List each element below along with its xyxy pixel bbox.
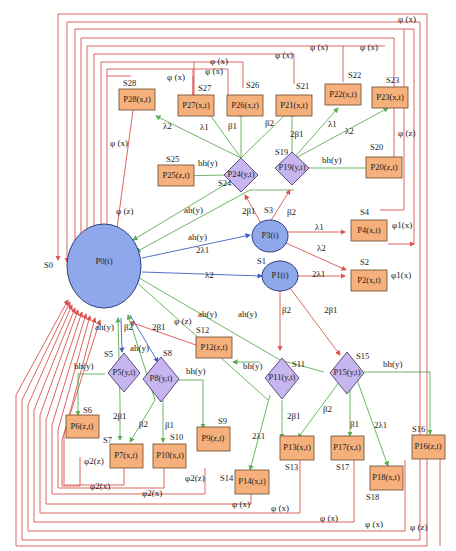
node-p16[interactable]: P16(z,t) S16 — [412, 424, 445, 459]
node-p17[interactable]: P17(x,t) S17 — [331, 436, 364, 472]
svg-text:β2: β2 — [139, 419, 148, 429]
svg-text:φ1(x): φ1(x) — [392, 220, 412, 230]
svg-text:P18(x,t): P18(x,t) — [372, 472, 400, 482]
svg-text:2β1: 2β1 — [324, 305, 338, 315]
svg-text:φ (x): φ (x) — [110, 138, 128, 148]
node-p15[interactable]: P15(y,t) S15 — [330, 351, 369, 394]
svg-text:β1: β1 — [350, 419, 359, 429]
svg-text:φ1(x): φ1(x) — [391, 270, 411, 280]
svg-text:λ1: λ1 — [328, 119, 337, 129]
svg-text:ah(y): ah(y) — [198, 309, 217, 319]
svg-text:2λ1: 2λ1 — [196, 245, 209, 255]
svg-text:S2: S2 — [360, 257, 369, 267]
svg-text:2λ1: 2λ1 — [374, 420, 387, 430]
node-p24[interactable]: P24(y,t) S24 — [218, 158, 258, 192]
node-p27[interactable]: P27(x,t) S27 — [178, 83, 214, 116]
svg-text:β1: β1 — [165, 420, 174, 430]
node-p1[interactable]: P1(t) S1 — [257, 256, 298, 291]
node-p23[interactable]: P23(x,t) S23 — [372, 75, 408, 108]
svg-text:ah(y): ah(y) — [188, 232, 207, 242]
svg-text:S10: S10 — [170, 432, 183, 442]
svg-text:S27: S27 — [198, 83, 211, 93]
svg-text:bh(y): bh(y) — [74, 361, 94, 371]
svg-text:φ (x): φ (x) — [210, 56, 228, 66]
svg-text:P27(x,t): P27(x,t) — [182, 100, 210, 110]
node-p5[interactable]: P5(y,t) S5 — [104, 349, 140, 392]
svg-text:P26(x,t): P26(x,t) — [231, 100, 259, 110]
node-p2[interactable]: P2(x,t) S2 — [351, 257, 387, 291]
svg-text:S5: S5 — [104, 349, 113, 359]
svg-text:bh(y): bh(y) — [186, 366, 206, 376]
svg-text:λ2: λ2 — [205, 270, 214, 280]
svg-text:2λ1: 2λ1 — [252, 431, 265, 441]
node-p20[interactable]: P20(z,t) S20 — [366, 142, 402, 178]
svg-text:P21(x,t): P21(x,t) — [280, 100, 308, 110]
node-p14[interactable]: P14(x,t) S14 — [220, 470, 269, 494]
svg-text:S22: S22 — [348, 70, 361, 80]
svg-text:ah(y): ah(y) — [130, 343, 149, 353]
node-p7[interactable]: P7(x,t) S7 — [103, 435, 143, 468]
svg-text:P25(z,t): P25(z,t) — [162, 170, 189, 180]
svg-text:P22(x,t): P22(x,t) — [329, 89, 357, 99]
node-p13[interactable]: P13(x,t) S13 — [280, 436, 314, 472]
svg-text:S13: S13 — [285, 462, 298, 472]
svg-text:φ (z): φ (z) — [410, 522, 427, 532]
svg-text:λ2: λ2 — [345, 126, 354, 136]
node-p10[interactable]: P10(x,t) S10 — [153, 432, 186, 468]
node-p3[interactable]: P3(t) S3 — [252, 205, 288, 252]
svg-text:φ2(x): φ2(x) — [90, 481, 110, 491]
svg-text:φ (z): φ (z) — [116, 206, 133, 216]
node-p26[interactable]: P26(x,t) S26 — [227, 80, 263, 116]
node-p25[interactable]: P25(z,t) S25 — [158, 154, 194, 186]
svg-text:S0: S0 — [44, 260, 53, 270]
svg-text:φ (x): φ (x) — [205, 66, 223, 76]
svg-text:φ (x): φ (x) — [275, 50, 293, 60]
svg-text:P17(x,t): P17(x,t) — [333, 442, 361, 452]
svg-text:2β1: 2β1 — [287, 411, 301, 421]
svg-text:ah(y): ah(y) — [95, 322, 114, 332]
svg-text:P20(z,t): P20(z,t) — [370, 162, 397, 172]
svg-text:P11(y,t): P11(y,t) — [269, 372, 296, 382]
svg-text:β1: β1 — [228, 121, 237, 131]
svg-text:ah(y): ah(y) — [238, 309, 257, 319]
svg-text:P10(x,t): P10(x,t) — [156, 450, 184, 460]
svg-text:S3: S3 — [264, 205, 273, 215]
node-p8[interactable]: P8(y,t) S8 — [143, 348, 179, 402]
svg-text:bh(y): bh(y) — [383, 359, 403, 369]
svg-text:φ (x): φ (x) — [310, 42, 328, 52]
node-p9[interactable]: P9(z,t) S9 — [197, 416, 230, 451]
svg-text:S23: S23 — [386, 75, 399, 85]
svg-text:P15(y,t): P15(y,t) — [333, 367, 360, 377]
svg-text:φ (x): φ (x) — [320, 513, 338, 523]
svg-text:bh(y): bh(y) — [198, 158, 218, 168]
svg-text:P9(z,t): P9(z,t) — [202, 433, 225, 443]
node-p18[interactable]: P18(x,t) S18 — [366, 466, 403, 502]
svg-text:P28(x,t): P28(x,t) — [123, 94, 151, 104]
svg-text:P3(t): P3(t) — [262, 230, 279, 240]
node-p11[interactable]: P11(y,t) S11 — [265, 358, 305, 399]
svg-text:φ2(x): φ2(x) — [142, 488, 162, 498]
svg-text:P2(x,t): P2(x,t) — [357, 275, 381, 285]
node-p19[interactable]: P19(y,t) S19 — [275, 147, 309, 185]
svg-text:2λ1: 2λ1 — [312, 269, 325, 279]
node-p4[interactable]: P4(x,t) S4 — [351, 207, 387, 241]
svg-text:β2: β2 — [287, 207, 296, 217]
svg-text:2β1: 2β1 — [113, 411, 127, 421]
svg-text:P16(z,t): P16(z,t) — [414, 441, 441, 451]
svg-text:P23(x,t): P23(x,t) — [376, 92, 404, 102]
node-p12[interactable]: P12(z,t) S12 — [196, 325, 232, 358]
svg-text:φ (x): φ (x) — [271, 503, 289, 513]
svg-text:S26: S26 — [246, 80, 259, 90]
svg-text:P4(x,t): P4(x,t) — [357, 225, 381, 235]
svg-text:S14: S14 — [220, 473, 234, 483]
svg-text:P19(y,t): P19(y,t) — [278, 162, 305, 172]
svg-text:φ2(z): φ2(z) — [84, 456, 104, 466]
svg-text:φ (x): φ (x) — [232, 499, 250, 509]
svg-text:φ (x): φ (x) — [167, 72, 185, 82]
node-p0[interactable]: P0(t) S0 — [44, 224, 141, 308]
node-p21[interactable]: P21(x,t) S21 — [276, 81, 312, 116]
svg-text:φ (x): φ (x) — [365, 519, 383, 529]
svg-text:λ2: λ2 — [163, 121, 172, 131]
node-p28[interactable]: P28(x,t) S28 — [119, 78, 155, 110]
svg-text:P8(y,t): P8(y,t) — [150, 373, 173, 383]
